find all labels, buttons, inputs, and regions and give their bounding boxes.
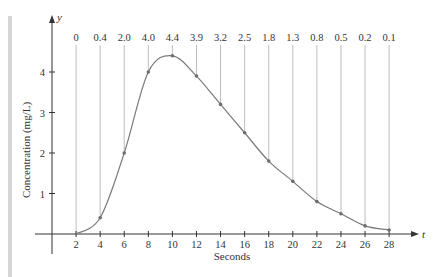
chart-canvas: 00.42.04.04.43.93.22.51.81.30.80.50.20.1… [0, 0, 442, 277]
top-value-label: 0 [73, 32, 78, 43]
x-tick-label: 12 [191, 239, 202, 250]
y-tick-label: 4 [40, 67, 46, 78]
data-point [195, 74, 199, 78]
data-point [171, 54, 175, 58]
top-value-label: 2.0 [118, 32, 131, 43]
data-point [219, 103, 223, 107]
data-point [363, 224, 367, 228]
data-point [315, 200, 319, 204]
top-value-label: 0.4 [94, 32, 108, 43]
data-point [98, 216, 102, 220]
concentration-chart: 00.42.04.04.43.93.22.51.81.30.80.50.20.1… [0, 0, 442, 277]
top-value-label: 1.3 [286, 32, 299, 43]
top-value-label: 0.2 [358, 32, 371, 43]
top-value-label: 2.5 [238, 32, 251, 43]
top-value-label: 4.4 [166, 32, 180, 43]
data-point [291, 180, 295, 184]
x-tick-label: 14 [215, 239, 226, 250]
y-axis-symbol: y [56, 11, 62, 23]
data-point [267, 159, 271, 163]
x-tick-label: 16 [239, 239, 250, 250]
x-tick-label: 24 [336, 239, 347, 250]
y-tick-label: 1 [40, 189, 45, 200]
concentration-curve [76, 56, 389, 234]
x-tick-label: 22 [312, 239, 323, 250]
x-tick-label: 28 [384, 239, 395, 250]
x-tick-label: 4 [98, 239, 104, 250]
data-point [339, 212, 343, 216]
x-tick-label: 26 [360, 239, 371, 250]
top-value-label: 0.8 [310, 32, 323, 43]
data-point [387, 228, 391, 232]
top-value-label: 4.0 [142, 32, 155, 43]
top-value-label: 3.9 [190, 32, 203, 43]
axes [35, 15, 419, 254]
x-tick-label: 10 [167, 239, 178, 250]
top-value-label: 1.8 [262, 32, 275, 43]
vertical-reference-lines [76, 45, 389, 234]
top-value-label: 0.5 [334, 32, 347, 43]
data-point [122, 151, 126, 155]
top-value-labels: 00.42.04.04.43.93.22.51.81.30.80.50.20.1 [73, 32, 395, 43]
y-axis-label: Concentration (mg/L) [20, 102, 33, 199]
x-axis-label: Seconds [214, 250, 251, 262]
x-tick-label: 8 [146, 239, 151, 250]
top-value-label: 3.2 [214, 32, 227, 43]
x-axis-symbol: t [422, 228, 426, 240]
top-value-label: 0.1 [383, 32, 396, 43]
y-tick-label: 2 [40, 148, 45, 159]
x-tick-label: 20 [288, 239, 299, 250]
x-tick-label: 2 [73, 239, 78, 250]
y-tick-label: 3 [40, 108, 45, 119]
x-axis-arrow [411, 231, 419, 237]
x-tick-label: 6 [122, 239, 127, 250]
data-point [147, 70, 151, 74]
y-axis-arrow [49, 15, 55, 23]
data-point [243, 131, 247, 135]
x-tick-label: 18 [263, 239, 274, 250]
